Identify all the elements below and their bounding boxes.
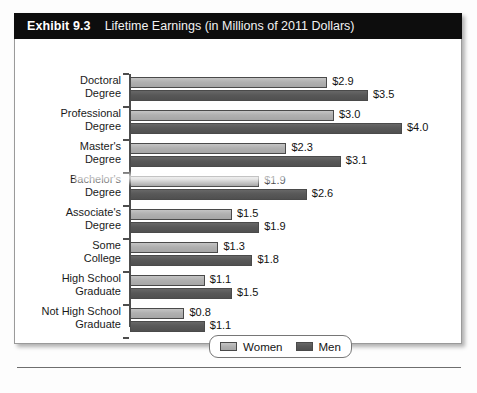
bar-women — [130, 308, 184, 319]
bar-women — [130, 209, 232, 220]
bar-women — [130, 275, 205, 286]
chart-legend: Women Men — [209, 335, 352, 358]
bar-value-label: $1.9 — [259, 220, 285, 232]
chart-plot-area: DoctoralDegree$2.9$3.5ProfessionalDegree… — [15, 40, 461, 343]
exhibit-header: Exhibit 9.3 Lifetime Earnings (in Millio… — [14, 13, 462, 39]
category-label-line: Associate's — [1, 206, 121, 219]
bar-value-label: $0.8 — [184, 306, 210, 318]
bar-men — [130, 321, 205, 332]
category-label-line: College — [1, 252, 121, 265]
bar-row-women: $3.0 — [130, 110, 334, 121]
exhibit-panel: Exhibit 9.3 Lifetime Earnings (in Millio… — [14, 13, 462, 344]
bar-men — [130, 288, 232, 299]
axis-tick — [123, 139, 129, 141]
category-label-line: Bachelor's — [1, 173, 121, 186]
bar-value-label: $1.5 — [232, 286, 258, 298]
axis-tick — [123, 205, 129, 207]
bar-row-women: $1.3 — [130, 242, 218, 253]
category-label: High SchoolGraduate — [1, 272, 121, 299]
category-label-line: High School — [1, 272, 121, 285]
bar-men — [130, 255, 252, 266]
category-label-line: Graduate — [1, 285, 121, 298]
bar-value-label: $1.5 — [232, 207, 258, 219]
bar-value-label: $1.3 — [218, 240, 244, 252]
bar-value-label: $1.1 — [205, 319, 231, 331]
bar-men — [130, 123, 402, 134]
bar-row-men: $1.1 — [130, 321, 205, 332]
bar-group: Not High SchoolGraduate$0.8$1.1 — [15, 305, 461, 338]
category-label: Not High SchoolGraduate — [1, 305, 121, 332]
bar-row-women: $2.9 — [130, 77, 327, 88]
bar-value-label: $2.9 — [327, 75, 353, 87]
legend-label-men: Men — [319, 341, 341, 353]
category-label-line: Degree — [1, 153, 121, 166]
bar-group: Associate'sDegree$1.5$1.9 — [15, 206, 461, 239]
bar-row-men: $2.6 — [130, 189, 307, 200]
legend-swatch-women — [220, 342, 237, 351]
bar-value-label: $3.5 — [368, 88, 394, 100]
bar-women — [130, 77, 327, 88]
axis-tick — [123, 106, 129, 108]
bar-women — [130, 110, 334, 121]
bar-row-men: $1.8 — [130, 255, 252, 266]
axis-tick — [123, 238, 129, 240]
bar-group: High SchoolGraduate$1.1$1.5 — [15, 272, 461, 305]
bar-value-label: $2.6 — [307, 187, 333, 199]
bar-group: Bachelor'sDegree$1.9$2.6 — [15, 173, 461, 206]
category-label: Master'sDegree — [1, 140, 121, 167]
legend-swatch-men — [296, 342, 313, 351]
legend-entry-men: Men — [296, 341, 341, 353]
bar-men — [130, 156, 341, 167]
bar-men — [130, 189, 307, 200]
category-label-line: Degree — [1, 219, 121, 232]
category-label-line: Graduate — [1, 318, 121, 331]
bar-value-label: $2.3 — [286, 141, 312, 153]
axis-tick — [123, 304, 129, 306]
category-label-line: Doctoral — [1, 74, 121, 87]
exhibit-number: Exhibit 9.3 — [27, 19, 91, 33]
bar-value-label: $4.0 — [402, 121, 428, 133]
category-label: DoctoralDegree — [1, 74, 121, 101]
bar-row-women: $2.3 — [130, 143, 286, 154]
category-label-line: Degree — [1, 120, 121, 133]
category-label-line: Degree — [1, 87, 121, 100]
bar-value-label: $1.1 — [205, 273, 231, 285]
axis-tick — [123, 73, 129, 75]
bar-row-men: $3.1 — [130, 156, 341, 167]
bar-women — [130, 143, 286, 154]
legend-label-women: Women — [243, 341, 282, 353]
bar-value-label: $1.9 — [259, 174, 285, 186]
bar-group: ProfessionalDegree$3.0$4.0 — [15, 107, 461, 140]
category-label: Bachelor'sDegree — [1, 173, 121, 200]
bar-row-women: $0.8 — [130, 308, 184, 319]
bar-row-women: $1.1 — [130, 275, 205, 286]
bar-row-women: $1.5 — [130, 209, 232, 220]
page-horizontal-rule — [17, 367, 461, 368]
category-label-line: Professional — [1, 107, 121, 120]
bar-row-men: $4.0 — [130, 123, 402, 134]
bar-group: Master'sDegree$2.3$3.1 — [15, 140, 461, 173]
category-label: ProfessionalDegree — [1, 107, 121, 134]
bar-row-women: $1.9 — [130, 176, 259, 187]
exhibit-title: Lifetime Earnings (in Millions of 2011 D… — [105, 19, 355, 33]
category-label-line: Degree — [1, 186, 121, 199]
bar-value-label: $3.0 — [334, 108, 360, 120]
legend-entry-women: Women — [220, 341, 282, 353]
category-label-line: Some — [1, 239, 121, 252]
bar-group: DoctoralDegree$2.9$3.5 — [15, 74, 461, 107]
category-label: SomeCollege — [1, 239, 121, 266]
bar-row-men: $3.5 — [130, 90, 368, 101]
bar-value-label: $1.8 — [252, 253, 278, 265]
axis-tick — [123, 172, 129, 174]
category-label-line: Not High School — [1, 305, 121, 318]
bar-row-men: $1.5 — [130, 288, 232, 299]
bar-men — [130, 222, 259, 233]
bar-value-label: $3.1 — [341, 154, 367, 166]
axis-tick — [123, 337, 129, 339]
category-label-line: Master's — [1, 140, 121, 153]
bar-men — [130, 90, 368, 101]
bar-women — [130, 242, 218, 253]
bar-group: SomeCollege$1.3$1.8 — [15, 239, 461, 272]
category-label: Associate'sDegree — [1, 206, 121, 233]
axis-tick — [123, 271, 129, 273]
